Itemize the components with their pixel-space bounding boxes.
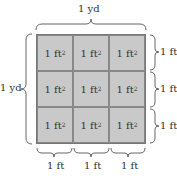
left-yard-label: 1 yd — [0, 82, 22, 93]
cell-label: 1 ft — [116, 84, 133, 95]
square-foot-cell: 1 ft2 — [109, 107, 145, 143]
cell-label: 1 ft — [44, 84, 61, 95]
right-foot-label-3: 1 ft — [160, 120, 177, 131]
bottom-foot-label-3: 1 ft — [121, 160, 138, 171]
right-foot-label-2: 1 ft — [160, 83, 177, 94]
bottom-foot-label-2: 1 ft — [84, 160, 101, 171]
square-foot-cell: 1 ft2 — [109, 35, 145, 71]
square-foot-cell: 1 ft2 — [37, 35, 73, 71]
square-foot-cell: 1 ft2 — [73, 35, 109, 71]
top-yard-label: 1 yd — [78, 3, 100, 14]
square-foot-cell: 1 ft2 — [109, 71, 145, 107]
bottom-foot-label-1: 1 ft — [47, 160, 64, 171]
square-yard-grid: 1 ft2 1 ft2 1 ft2 1 ft2 1 ft2 1 ft2 1 ft… — [36, 34, 146, 144]
square-foot-cell: 1 ft2 — [73, 107, 109, 143]
cell-label: 1 ft — [80, 48, 97, 59]
cell-label: 1 ft — [44, 120, 61, 131]
square-foot-cell: 1 ft2 — [37, 107, 73, 143]
cell-label: 1 ft — [116, 48, 133, 59]
cell-label: 1 ft — [44, 48, 61, 59]
cell-label: 1 ft — [116, 120, 133, 131]
cell-label: 1 ft — [80, 84, 97, 95]
right-foot-label-1: 1 ft — [160, 46, 177, 57]
cell-label: 1 ft — [80, 120, 97, 131]
square-foot-cell: 1 ft2 — [73, 71, 109, 107]
square-foot-cell: 1 ft2 — [37, 71, 73, 107]
